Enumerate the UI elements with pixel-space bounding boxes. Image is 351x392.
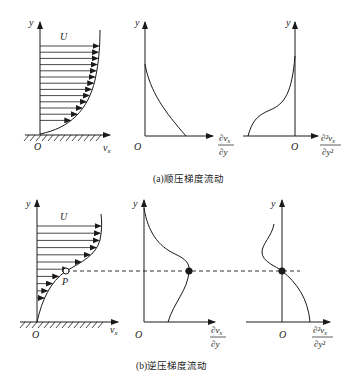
hatch-mark bbox=[24, 135, 29, 141]
svg-text:∂y²: ∂y² bbox=[322, 147, 333, 157]
hatch-mark bbox=[98, 322, 103, 328]
panel-a-velocity-profile: y U O vx bbox=[24, 17, 111, 155]
svg-text:∂²vx: ∂²vx bbox=[313, 325, 327, 336]
svg-text:∂y: ∂y bbox=[211, 339, 219, 349]
max-shear-point bbox=[186, 268, 193, 275]
hatch-mark bbox=[26, 322, 31, 328]
hatch-mark bbox=[32, 322, 37, 328]
shear-curve bbox=[144, 208, 189, 322]
origin-label: O bbox=[34, 141, 41, 152]
svg-text:∂vx: ∂vx bbox=[219, 133, 230, 144]
x-axis-label: vx bbox=[110, 324, 118, 337]
hatch-mark bbox=[92, 322, 97, 328]
y-axis-label: y bbox=[270, 198, 276, 209]
x-axis-label: ∂²vx ∂y² bbox=[312, 325, 333, 349]
hatch-mark bbox=[96, 135, 101, 141]
hatch-mark bbox=[86, 322, 91, 328]
hatch-mark bbox=[66, 135, 71, 141]
panel-a-second-derivative: y O ∂²vx ∂y² bbox=[243, 17, 341, 157]
hatch-mark bbox=[44, 322, 49, 328]
freestream-label: U bbox=[60, 211, 68, 222]
hatch-mark bbox=[42, 135, 47, 141]
origin-label: O bbox=[134, 141, 141, 152]
inflection-point-label: P bbox=[61, 276, 68, 287]
hatch-mark bbox=[54, 135, 59, 141]
svg-text:∂y: ∂y bbox=[219, 147, 227, 157]
wall-hatching bbox=[20, 322, 103, 328]
y-axis-label: y bbox=[28, 17, 34, 28]
x-axis-label: ∂vx ∂y bbox=[210, 325, 226, 349]
svg-text:∂vx: ∂vx bbox=[211, 325, 222, 336]
hatch-mark bbox=[20, 322, 25, 328]
caption-b: (b)逆压梯度流动 bbox=[136, 360, 207, 372]
velocity-vectors bbox=[40, 46, 99, 120]
origin-label: O bbox=[279, 329, 286, 340]
hatch-mark bbox=[84, 135, 89, 141]
hatch-mark bbox=[72, 135, 77, 141]
curvature-curve bbox=[248, 56, 295, 136]
hatch-mark bbox=[60, 135, 65, 141]
panel-b-first-derivative: y O ∂vx ∂y bbox=[132, 198, 226, 349]
curvature-curve bbox=[262, 224, 310, 322]
boundary-layer-figure: y U O vx y O ∂vx ∂y y O ∂²vx ∂y² (a)顺压梯度… bbox=[0, 0, 351, 392]
hatch-mark bbox=[78, 135, 83, 141]
hatch-mark bbox=[50, 322, 55, 328]
svg-text:∂²vx: ∂²vx bbox=[321, 133, 335, 144]
x-axis-label: ∂²vx ∂y² bbox=[320, 133, 341, 157]
y-axis-label: y bbox=[134, 17, 140, 28]
panel-b-second-derivative: y O ∂²vx ∂y² bbox=[246, 198, 333, 349]
x-axis-label: ∂vx ∂y bbox=[218, 133, 234, 157]
caption-a: (a)顺压梯度流动 bbox=[153, 173, 224, 185]
hatch-mark bbox=[74, 322, 79, 328]
origin-label: O bbox=[291, 141, 298, 152]
panel-b-velocity-profile: P y U O vx bbox=[20, 198, 300, 340]
zero-curvature-point bbox=[279, 268, 286, 275]
hatch-mark bbox=[62, 322, 67, 328]
inflection-point-marker bbox=[63, 268, 69, 274]
shear-curve bbox=[145, 64, 186, 136]
panel-a-first-derivative: y O ∂vx ∂y bbox=[134, 17, 234, 157]
svg-text:∂y²: ∂y² bbox=[314, 339, 325, 349]
hatch-mark bbox=[68, 322, 73, 328]
hatch-mark bbox=[48, 135, 53, 141]
y-axis-label: y bbox=[285, 17, 291, 28]
hatch-mark bbox=[90, 135, 95, 141]
hatch-mark bbox=[80, 322, 85, 328]
hatch-mark bbox=[38, 322, 43, 328]
y-axis-label: y bbox=[25, 198, 31, 209]
velocity-vectors bbox=[37, 226, 101, 298]
hatch-mark bbox=[56, 322, 61, 328]
freestream-label: U bbox=[60, 31, 68, 42]
origin-label: O bbox=[32, 329, 39, 340]
velocity-profile-curve bbox=[37, 214, 102, 322]
y-axis-label: y bbox=[132, 198, 138, 209]
x-axis-label: vx bbox=[103, 142, 111, 155]
origin-label: O bbox=[135, 329, 142, 340]
